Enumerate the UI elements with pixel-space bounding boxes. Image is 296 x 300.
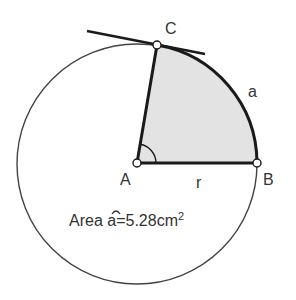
area-text: Area a=5.28cm2 — [69, 210, 184, 229]
point-c — [153, 41, 161, 49]
point-a — [133, 159, 141, 167]
area-exponent: 2 — [178, 210, 184, 222]
area-prefix: Area — [69, 212, 107, 229]
label-b: B — [263, 171, 274, 188]
tangent-line — [87, 31, 205, 54]
label-c: C — [165, 20, 177, 37]
point-b — [253, 159, 261, 167]
label-arc-a: a — [248, 83, 257, 100]
area-value: =5.28cm — [116, 212, 178, 229]
area-symbol: a — [107, 212, 116, 229]
label-radius-r: r — [196, 174, 202, 191]
sector-diagram: C A B a r Area a=5.28cm2 — [0, 0, 296, 300]
label-a: A — [120, 171, 131, 188]
